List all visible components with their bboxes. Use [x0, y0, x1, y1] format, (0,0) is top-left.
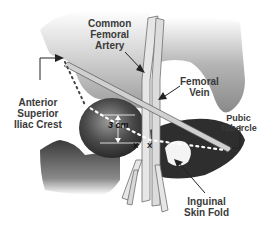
label-common-femoral-artery: Common Femoral Artery — [88, 18, 131, 51]
label-line: Anterior — [14, 97, 62, 108]
label-line: Pubic — [220, 113, 257, 123]
puncture-mark-vein: X — [147, 141, 152, 150]
label-asis: Anterior Superior Iliac Crest — [14, 97, 62, 130]
label-line: Tubercle — [220, 123, 257, 133]
label-line: Iliac Crest — [14, 119, 62, 130]
label-line: Common — [88, 18, 131, 29]
label-line: Superior — [14, 108, 62, 119]
measurement-label: 3 cm — [108, 120, 129, 130]
label-inguinal-skin-fold: Inguinal Skin Fold — [184, 196, 229, 218]
anatomy-diagram: Common Femoral Artery Femoral Vein Anter… — [0, 0, 273, 230]
label-line: Skin Fold — [184, 207, 229, 218]
label-femoral-vein: Femoral Vein — [180, 76, 219, 98]
label-line: Femoral — [180, 76, 219, 87]
label-line: Vein — [180, 87, 219, 98]
label-pubic-tubercle: Pubic Tubercle — [220, 113, 257, 133]
label-line: Artery — [88, 40, 131, 51]
label-line: Inguinal — [184, 196, 229, 207]
puncture-mark-artery: X — [133, 141, 138, 150]
label-line: Femoral — [88, 29, 131, 40]
